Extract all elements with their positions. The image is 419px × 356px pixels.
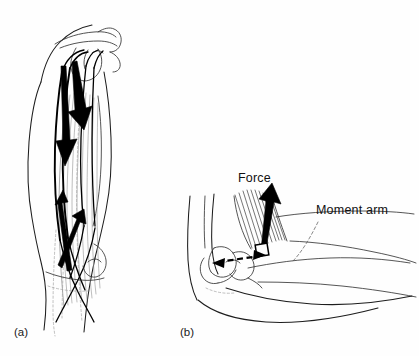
moment-arm-vector	[212, 250, 266, 268]
panel-a-label: (a)	[14, 326, 28, 338]
anatomy-figure: (a)	[0, 0, 419, 356]
moment-arm-label: Moment arm	[316, 203, 388, 217]
upper-arm-outline-b	[188, 194, 218, 300]
figure-canvas: (a)	[0, 0, 419, 356]
force-label: Force	[238, 171, 271, 185]
forearm-outline-b	[198, 211, 416, 322]
panel-a-group: (a)	[14, 25, 121, 338]
panel-b-label: (b)	[180, 326, 194, 338]
panel-b-group: Force Moment arm (b)	[180, 171, 416, 338]
elbow-joint-bones	[200, 247, 262, 294]
